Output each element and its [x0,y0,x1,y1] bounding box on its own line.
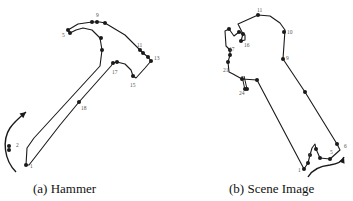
point-label: 11 [137,42,143,48]
contour-point [103,21,107,25]
hammer-contour-panel: 12591113151718 [5,12,160,172]
point-label: 15 [130,82,136,88]
point-label: 9 [96,12,99,18]
contour-point [227,27,231,31]
point-label: 24 [239,90,245,96]
contour-point [149,59,153,63]
contour-point [255,78,259,82]
contour-point [95,20,99,24]
point-label: 13 [154,55,160,61]
contour-point [90,20,94,24]
contour-point [146,55,150,59]
point-label: 3 [308,152,311,158]
contour-point [100,48,104,52]
contour-point [115,60,119,64]
point-label: 9 [286,55,289,61]
point-label: 6 [344,143,347,149]
contour-point [303,90,307,94]
contour-point [24,163,28,167]
scene-contour-panel: 13569101116172124 [223,7,347,177]
contour-point [66,28,70,32]
direction-arrow [308,157,344,177]
contour-point [138,48,142,52]
contour-point [131,74,135,78]
contour-point [239,39,243,43]
contour-point [77,100,81,104]
point-label: 18 [81,105,87,111]
contour-point [240,77,244,81]
contour-point [302,167,306,171]
contour-point [335,142,339,146]
point-label: 16 [244,42,250,48]
contour-point [241,32,245,36]
point-label: 17 [229,46,235,52]
contour-point [306,161,310,165]
point-label: 10 [287,29,293,35]
contour-point [228,53,232,57]
contour-point [281,57,285,61]
point-label: 2 [16,142,19,148]
contour-point [141,51,145,55]
contour-point [318,156,322,160]
caption-scene-image: (b) Scene Image [229,181,314,197]
contour-point [328,157,332,161]
point-label: 1 [298,167,301,173]
point-label: 5 [62,32,65,38]
contour-point [256,13,260,17]
point-label: 11 [257,7,263,13]
caption-hammer: (a) Hammer [33,181,96,197]
contour-point [314,147,318,151]
contour-point [7,144,11,148]
contour-point [7,148,11,152]
contour-point [226,60,230,64]
figure-canvas: 12591113151718 13569101116172124 [0,0,353,201]
point-label: 1 [30,163,33,169]
contour-point [282,30,286,34]
contour-point [111,61,115,65]
point-label: 17 [112,69,118,75]
contour-point [237,30,241,34]
point-label: 5 [330,149,333,155]
contour-point [99,36,103,40]
point-label: 21 [223,67,229,73]
contour-outline [26,22,151,165]
